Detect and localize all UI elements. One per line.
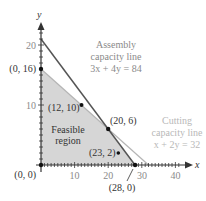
label-point-20-6: (20, 6) xyxy=(110,115,137,127)
feasible-region-label-line1: Feasible xyxy=(51,124,85,135)
label-point-28-0: (28, 0) xyxy=(109,182,136,194)
y-axis-label: y xyxy=(36,9,42,20)
cutting-line-title-1: Cutting xyxy=(162,115,192,126)
point-20-6 xyxy=(106,127,110,131)
point-23-2 xyxy=(117,151,121,155)
x-axis-arrow-icon xyxy=(185,162,193,169)
point-28-0 xyxy=(133,163,137,167)
point-0-16 xyxy=(39,67,43,71)
assembly-line-title-1: Assembly xyxy=(96,39,136,50)
y-tick-10: 10 xyxy=(26,100,36,111)
x-tick-30: 30 xyxy=(137,170,147,181)
pointer-28-0 xyxy=(127,169,133,181)
label-point-12-10: (12, 10) xyxy=(48,102,80,114)
assembly-line-title-2: capacity line xyxy=(91,51,142,62)
label-point-origin: (0, 0) xyxy=(14,169,36,181)
point-12-10 xyxy=(80,103,84,107)
feasible-region-label-line2: region xyxy=(55,135,81,146)
x-tick-20: 20 xyxy=(103,170,113,181)
label-point-23-2: (23, 2) xyxy=(89,147,116,159)
cutting-line-title-2: capacity line xyxy=(152,127,203,138)
point-origin xyxy=(39,163,43,167)
assembly-line-equation: 3x + 4y = 84 xyxy=(90,63,141,74)
cutting-line-equation: x + 2y = 32 xyxy=(154,139,200,150)
y-tick-20: 20 xyxy=(26,40,36,51)
x-tick-10: 10 xyxy=(70,170,80,181)
x-tick-40: 40 xyxy=(170,170,180,181)
lp-diagram: x 10 20 30 40 y 10 20 (0, 16) (1 xyxy=(0,0,206,201)
y-axis-arrow-icon xyxy=(38,22,45,30)
label-point-0-16: (0, 16) xyxy=(9,63,36,75)
x-axis-label: x xyxy=(194,159,200,170)
